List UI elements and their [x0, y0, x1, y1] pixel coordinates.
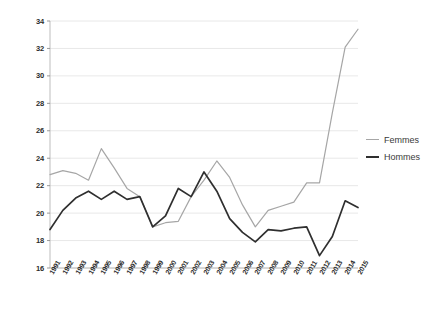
y-tick-label: 16 [20, 264, 44, 273]
legend-item-hommes: Hommes [366, 148, 420, 165]
line-chart: 16182022242628303234 1991199219931994199… [0, 0, 446, 309]
legend-label-femmes: Femmes [384, 135, 419, 145]
y-tick-label: 22 [20, 181, 44, 190]
legend-swatch-femmes [366, 139, 379, 140]
legend-swatch-hommes [366, 156, 379, 158]
y-tick-label: 30 [20, 71, 44, 80]
gridlines [50, 21, 358, 268]
chart-legend: Femmes Hommes [366, 131, 420, 165]
y-tick-label: 18 [20, 236, 44, 245]
y-tick-label: 28 [20, 99, 44, 108]
axes [47, 21, 358, 268]
y-tick-label: 34 [20, 17, 44, 26]
y-tick-label: 24 [20, 154, 44, 163]
y-tick-label: 26 [20, 126, 44, 135]
legend-label-hommes: Hommes [384, 152, 420, 162]
series-line-femmes [50, 29, 358, 227]
legend-item-femmes: Femmes [366, 131, 420, 148]
y-tick-label: 32 [20, 44, 44, 53]
y-tick-label: 20 [20, 209, 44, 218]
series-line-hommes [50, 172, 358, 256]
series-lines [50, 29, 358, 255]
